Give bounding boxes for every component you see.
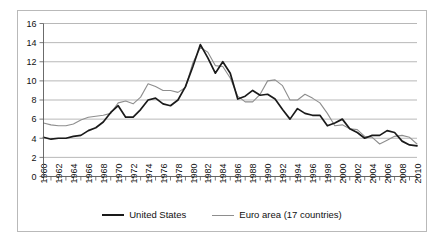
x-tick-label: 1970	[114, 163, 124, 183]
x-tick-label: 1998	[323, 163, 333, 183]
x-tick-label: 1974	[144, 163, 154, 183]
y-tick-label: 2	[31, 153, 36, 163]
x-tick-label: 1984	[218, 163, 228, 183]
chart-legend: United States Euro area (17 countries)	[17, 205, 427, 225]
y-tick-label: 6	[31, 114, 36, 124]
x-tick-label: 1964	[69, 163, 79, 183]
legend-label-united-states: United States	[129, 210, 186, 220]
chart-figure: 0246810121416 19601962196419661968197019…	[0, 0, 443, 245]
x-tick-label: 1992	[278, 163, 288, 183]
legend-line-icon-euro-area	[212, 215, 234, 216]
x-tick-label: 1990	[263, 163, 273, 183]
x-tick-label: 2004	[368, 163, 378, 183]
legend-line-icon-united-states	[102, 214, 124, 216]
x-tick-label: 2008	[398, 163, 408, 183]
x-tick-label: 1986	[233, 163, 243, 183]
legend-item-united-states: United States	[102, 210, 186, 220]
series-line-united-states	[44, 45, 418, 146]
x-tick-label: 1978	[174, 163, 184, 183]
x-tick-label: 1976	[159, 163, 169, 183]
legend-item-euro-area: Euro area (17 countries)	[212, 210, 341, 220]
x-tick-label: 1980	[189, 163, 199, 183]
x-tick-label: 2000	[338, 163, 348, 183]
x-tick-label: 1996	[308, 163, 318, 183]
x-tick-label: 1972	[129, 163, 139, 183]
y-tick-label: 10	[26, 76, 36, 86]
x-tick-label: 1968	[99, 163, 109, 183]
y-tick-label: 16	[26, 19, 36, 29]
x-tick-label: 2002	[353, 163, 363, 183]
y-tick-labels: 0246810121416	[26, 19, 36, 182]
x-tick-label: 1960	[39, 163, 49, 183]
x-tick-label: 1982	[203, 163, 213, 183]
gridlines	[40, 24, 418, 177]
y-tick-label: 12	[26, 57, 36, 67]
x-tick-label: 1988	[248, 163, 258, 183]
x-tick-label: 1966	[84, 163, 94, 183]
legend-label-euro-area: Euro area (17 countries)	[239, 210, 341, 220]
x-tick-label: 2010	[413, 163, 423, 183]
x-tick-label: 1994	[293, 163, 303, 183]
y-tick-label: 14	[26, 38, 36, 48]
y-tick-label: 0	[31, 172, 36, 182]
x-tick-label: 2006	[383, 163, 393, 183]
y-tick-label: 4	[31, 134, 36, 144]
y-tick-label: 8	[31, 95, 36, 105]
x-tick-label: 1962	[54, 163, 64, 183]
